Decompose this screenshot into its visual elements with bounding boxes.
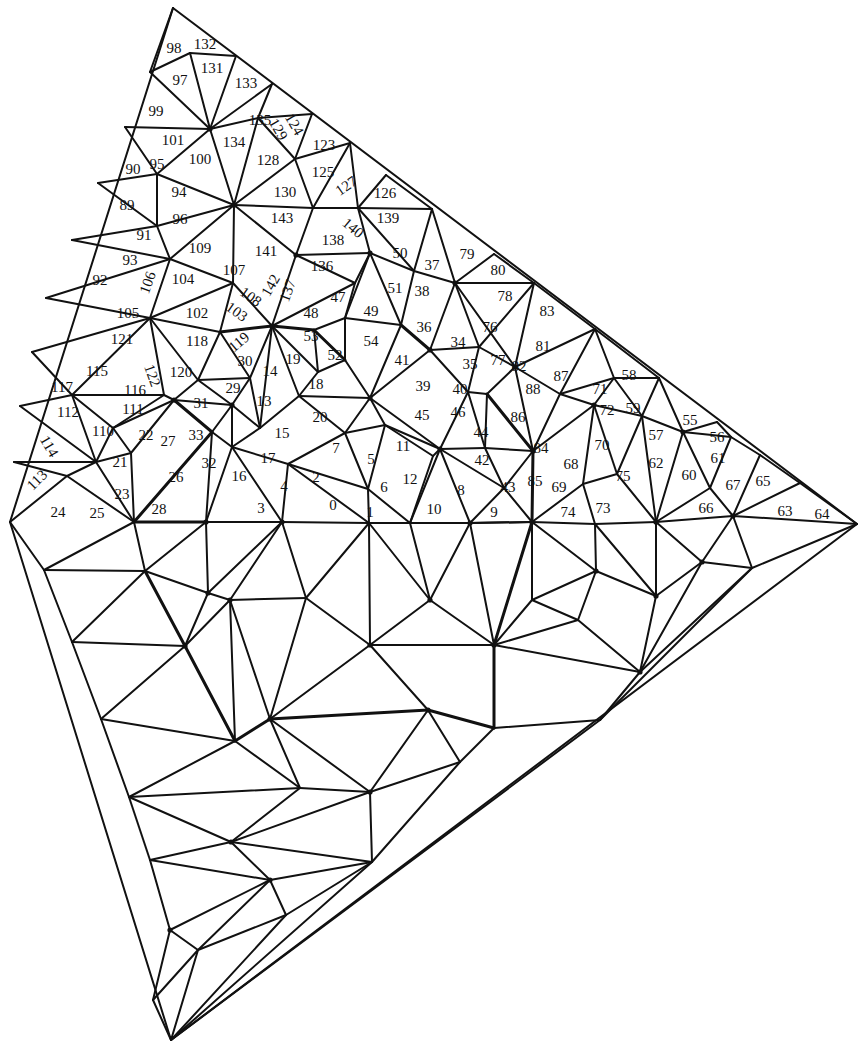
mesh-edge xyxy=(288,464,369,523)
triangle-label: 73 xyxy=(596,500,611,516)
triangle-label: 88 xyxy=(526,381,541,397)
triangle-label: 120 xyxy=(170,364,193,380)
mesh-vertex xyxy=(205,590,210,595)
mesh-edge xyxy=(532,522,596,571)
mesh-edge xyxy=(101,719,129,797)
triangle-label: 1 xyxy=(366,504,374,520)
mesh-vertex xyxy=(699,559,704,564)
triangle-label: 90 xyxy=(126,161,141,177)
mesh-edge xyxy=(583,474,617,484)
mesh-edge xyxy=(430,523,470,600)
triangle-label: 58 xyxy=(622,367,637,383)
triangle-label: 97 xyxy=(173,72,189,88)
mesh-edge xyxy=(440,449,470,523)
mesh-edge xyxy=(270,645,370,719)
mesh-vertex xyxy=(279,519,284,524)
triangle-label: 110 xyxy=(92,423,114,439)
triangle-label: 95 xyxy=(150,156,165,172)
mesh-edge xyxy=(358,208,432,209)
triangle-label: 132 xyxy=(194,36,217,52)
triangle-label: 141 xyxy=(255,243,278,259)
mesh-edge xyxy=(232,428,260,447)
mesh-edge xyxy=(596,571,656,596)
triangle-label: 17 xyxy=(261,450,277,466)
mesh-edge xyxy=(72,642,101,719)
triangle-label: 0 xyxy=(329,497,337,513)
mesh-vertex xyxy=(182,643,187,648)
triangle-label: 34 xyxy=(451,334,467,350)
triangle-label: 130 xyxy=(274,184,297,200)
triangle-label: 86 xyxy=(511,409,527,425)
mesh-edge xyxy=(72,642,185,646)
triangle-label: 125 xyxy=(312,164,335,180)
triangle-label: 100 xyxy=(189,151,212,167)
triangle-label: 40 xyxy=(453,381,468,397)
mesh-edge xyxy=(171,720,600,1040)
mesh-vertex xyxy=(680,429,685,434)
mesh-edge xyxy=(231,842,372,862)
mesh-edge xyxy=(370,398,385,425)
mesh-edge xyxy=(129,797,231,842)
triangle-label: 44 xyxy=(474,424,490,440)
mesh-edge xyxy=(494,720,600,728)
mesh-edge xyxy=(595,522,656,524)
mesh-edge xyxy=(185,646,235,741)
mesh-edge xyxy=(532,522,595,524)
triangle-label: 20 xyxy=(313,409,328,425)
mesh-vertex xyxy=(229,402,234,407)
mesh-vertex xyxy=(228,839,233,844)
mesh-edge xyxy=(494,620,578,645)
triangle-label: 37 xyxy=(425,257,441,273)
triangle-label: 26 xyxy=(169,469,185,485)
mesh-edge xyxy=(656,516,733,522)
triangle-label: 14 xyxy=(263,363,279,379)
mesh-edge xyxy=(288,464,368,489)
triangulated-mesh-diagram: 9813297131133991351241291011341239095100… xyxy=(0,0,861,1047)
mesh-vertex xyxy=(427,597,432,602)
triangle-label: 5 xyxy=(367,451,375,467)
mesh-edge xyxy=(44,570,72,642)
mesh-edge xyxy=(231,788,300,842)
mesh-vertex xyxy=(637,669,642,674)
mesh-edge xyxy=(752,524,857,568)
mesh-edge xyxy=(270,710,428,719)
triangle-label: 78 xyxy=(498,288,513,304)
mesh-edge xyxy=(220,326,272,332)
mesh-edge xyxy=(198,378,250,380)
mesh-vertex xyxy=(267,877,272,882)
triangle-label: 117 xyxy=(51,379,73,395)
mesh-edge xyxy=(295,159,313,208)
mesh-edge xyxy=(515,329,595,367)
mesh-edge xyxy=(470,523,494,645)
triangle-label: 21 xyxy=(113,454,128,470)
triangle-label: 55 xyxy=(683,412,698,428)
mesh-edge xyxy=(532,600,578,620)
triangle-label: 82 xyxy=(512,358,527,374)
mesh-edge xyxy=(134,522,145,571)
triangle-label: 115 xyxy=(86,363,108,379)
mesh-vertex xyxy=(452,280,457,285)
mesh-edge xyxy=(595,524,656,596)
mesh-edge xyxy=(125,127,210,129)
mesh-edge xyxy=(171,915,286,1040)
triangle-label: 6 xyxy=(380,479,388,495)
triangle-label: 30 xyxy=(238,353,253,369)
triangle-label: 52 xyxy=(328,347,343,363)
triangle-label: 136 xyxy=(311,258,334,274)
triangle-label: 42 xyxy=(475,452,490,468)
triangle-label: 43 xyxy=(501,479,516,495)
mesh-edge xyxy=(234,205,313,208)
mesh-vertex xyxy=(491,642,496,647)
mesh-edge xyxy=(185,593,208,646)
mesh-edge xyxy=(702,562,752,568)
mesh-edge xyxy=(515,283,534,367)
triangle-label: 128 xyxy=(257,152,280,168)
mesh-edge xyxy=(494,522,532,645)
triangle-label: 51 xyxy=(388,280,403,296)
triangle-label: 59 xyxy=(626,400,641,416)
triangle-label: 93 xyxy=(123,252,138,268)
mesh-vertex xyxy=(367,789,372,794)
mesh-edge xyxy=(656,562,702,596)
triangle-label: 22 xyxy=(139,427,154,443)
triangle-label: 111 xyxy=(122,401,143,417)
